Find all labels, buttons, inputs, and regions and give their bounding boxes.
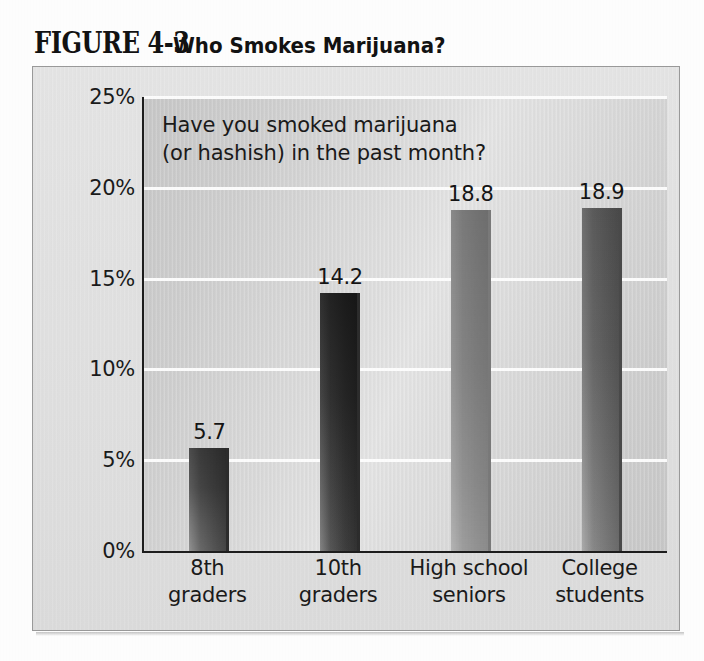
y-axis-tick: 10%	[65, 357, 135, 381]
x-axis: 8th graders10th gradersHigh school senio…	[142, 555, 665, 625]
plot-area: Have you smoked marijuana (or hashish) i…	[142, 97, 667, 553]
figure-title: FIGURE 4-3 Who Smokes Marijuana?	[34, 20, 674, 58]
gridline	[144, 96, 667, 99]
x-axis-tick: 10th graders	[273, 555, 404, 625]
figure-caption: Who Smokes Marijuana?	[173, 35, 445, 58]
bar: 14.2	[320, 293, 360, 551]
bar-value-label: 14.2	[317, 265, 363, 289]
x-axis-tick: 8th graders	[142, 555, 273, 625]
bar-fill	[451, 210, 491, 551]
y-axis-tick: 20%	[65, 176, 135, 200]
y-axis: 25%20%15%10%5%0%	[63, 97, 135, 551]
bar: 18.8	[451, 210, 491, 551]
x-axis-tick: High school seniors	[404, 555, 535, 625]
bar-fill	[189, 448, 229, 552]
frame-shadow	[36, 632, 684, 636]
bar-value-label: 18.8	[448, 182, 494, 206]
y-axis-tick: 15%	[65, 267, 135, 291]
bar-value-label: 18.9	[579, 180, 625, 204]
figure-number: FIGURE 4-3	[34, 28, 190, 58]
chart-annotation: Have you smoked marijuana (or hashish) i…	[162, 111, 486, 167]
y-axis-tick: 25%	[65, 85, 135, 109]
bar: 5.7	[189, 448, 229, 552]
y-axis-tick: 0%	[65, 539, 135, 563]
x-axis-tick: College students	[534, 555, 665, 625]
bar-value-label: 5.7	[193, 420, 226, 444]
chart-frame: 25%20%15%10%5%0% Have you smoked marijua…	[32, 66, 680, 631]
y-axis-tick: 5%	[65, 448, 135, 472]
bar-fill	[320, 293, 360, 551]
bar-fill	[582, 208, 622, 551]
bar: 18.9	[582, 208, 622, 551]
